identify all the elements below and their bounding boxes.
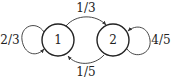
node-2-label: 2 [109,33,117,47]
node-1: 1 [42,24,74,56]
edge-2-to-2 [127,27,150,55]
edge-2-to-1 [68,55,104,63]
edge-1-to-2-label: 1/3 [76,1,95,15]
edge-1-to-1 [22,26,44,54]
markov-chain-diagram: 1 2 2/3 1/3 1/5 4/5 [0,0,171,81]
edge-1-to-2 [66,17,106,26]
node-2: 2 [97,24,129,56]
edge-1-to-1-label: 2/3 [0,33,19,47]
edge-2-to-2-label: 4/5 [151,33,170,47]
edge-2-to-1-label: 1/5 [76,65,95,79]
node-1-label: 1 [54,33,62,47]
